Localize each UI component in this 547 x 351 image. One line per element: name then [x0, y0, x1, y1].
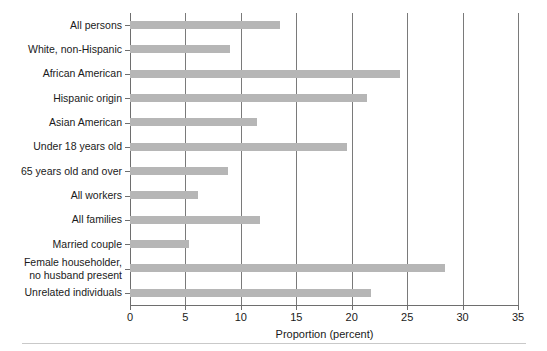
y-tick-mark — [125, 171, 130, 172]
bar-row — [130, 232, 518, 256]
x-tick-label-25: 25 — [387, 311, 427, 324]
bar — [130, 70, 400, 78]
bar — [130, 264, 445, 272]
bar-row — [130, 281, 518, 305]
y-tick-mark — [125, 50, 130, 51]
poverty-rate-bar-chart: All personsWhite, non-HispanicAfrican Am… — [0, 0, 547, 351]
y-tick-mark — [125, 220, 130, 221]
bar-row — [130, 110, 518, 134]
bar-row — [130, 37, 518, 61]
y-tick-mark — [125, 74, 130, 75]
x-axis-title: Proportion (percent) — [130, 328, 519, 340]
bar — [130, 191, 198, 199]
x-tick-mark-0 — [130, 305, 131, 310]
bar-row — [130, 208, 518, 232]
category-labels-layer: All personsWhite, non-HispanicAfrican Am… — [0, 13, 122, 305]
bar-row — [130, 13, 518, 37]
category-label: Asian American — [2, 116, 122, 129]
category-label: Hispanic origin — [2, 92, 122, 105]
bar-row — [130, 256, 518, 280]
category-label: White, non-Hispanic — [2, 43, 122, 56]
x-tick-label-15: 15 — [276, 311, 316, 324]
category-label: Unrelated individuals — [2, 286, 122, 299]
x-tick-mark-15 — [296, 305, 297, 310]
bar — [130, 289, 371, 297]
x-tick-mark-5 — [185, 305, 186, 310]
x-tick-label-0: 0 — [110, 311, 150, 324]
category-label: All persons — [2, 19, 122, 32]
x-tick-label-30: 30 — [443, 311, 483, 324]
x-tick-mark-35 — [518, 305, 519, 310]
x-tick-mark-30 — [463, 305, 464, 310]
bar — [130, 143, 347, 151]
x-tick-label-20: 20 — [332, 311, 372, 324]
plot-area — [130, 13, 518, 305]
y-tick-mark — [125, 196, 130, 197]
category-label: 65 years old and over — [2, 165, 122, 178]
footer-divider — [22, 343, 526, 344]
x-tick-label-35: 35 — [498, 311, 538, 324]
y-tick-mark — [125, 25, 130, 26]
bar-row — [130, 62, 518, 86]
bar — [130, 45, 230, 53]
category-label: Married couple — [2, 238, 122, 251]
bar-row — [130, 135, 518, 159]
x-axis-spine — [130, 305, 519, 306]
x-tick-label-10: 10 — [221, 311, 261, 324]
bar — [130, 21, 280, 29]
category-label: Under 18 years old — [2, 140, 122, 153]
x-tick-mark-25 — [407, 305, 408, 310]
x-tick-mark-10 — [241, 305, 242, 310]
y-tick-mark — [125, 269, 130, 270]
x-tick-mark-20 — [352, 305, 353, 310]
category-label: All workers — [2, 189, 122, 202]
y-tick-mark — [125, 147, 130, 148]
category-label: All families — [2, 213, 122, 226]
x-tick-label-5: 5 — [165, 311, 205, 324]
bar-row — [130, 183, 518, 207]
bar — [130, 216, 260, 224]
gridline-35 — [518, 13, 519, 305]
bar — [130, 118, 257, 126]
y-tick-mark — [125, 293, 130, 294]
bar-row — [130, 86, 518, 110]
category-label: African American — [2, 67, 122, 80]
y-tick-mark — [125, 98, 130, 99]
bar — [130, 167, 228, 175]
y-tick-mark — [125, 244, 130, 245]
bar — [130, 240, 189, 248]
category-label: Female householder, no husband present — [2, 256, 122, 281]
bar — [130, 94, 367, 102]
bar-row — [130, 159, 518, 183]
y-tick-mark — [125, 123, 130, 124]
